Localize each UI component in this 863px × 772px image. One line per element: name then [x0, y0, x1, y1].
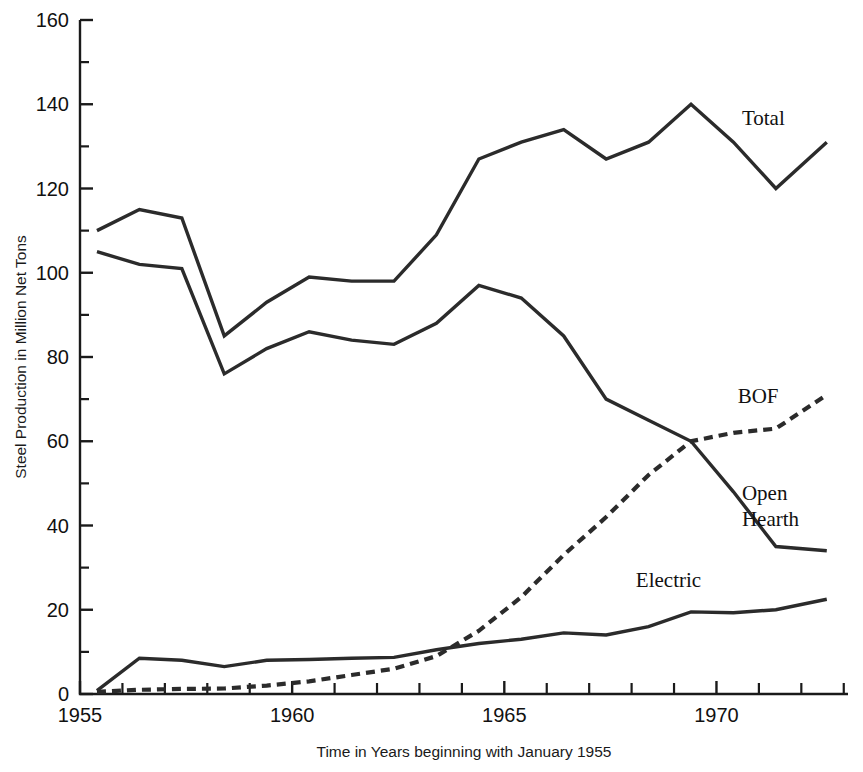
series-label-bof: BOF: [738, 384, 779, 408]
y-tick-label: 0: [58, 683, 69, 705]
y-axis-ticks: [80, 20, 93, 694]
y-axis-title: Steel Production in Million Net Tons: [12, 235, 29, 479]
series-line-electric: [97, 599, 827, 690]
x-tick-label: 1960: [270, 704, 315, 726]
chart-series-group: [97, 104, 827, 692]
y-tick-label: 100: [36, 262, 69, 284]
chart-axes: 020406080100120140160 1955196019651970: [36, 9, 848, 726]
y-tick-label: 120: [36, 178, 69, 200]
x-tick-label: 1955: [58, 704, 103, 726]
series-label-total: Total: [742, 106, 785, 130]
axis-frame: [80, 20, 848, 694]
y-tick-label: 80: [47, 346, 69, 368]
chart-figure: 020406080100120140160 1955196019651970 T…: [0, 0, 863, 772]
y-tick-label: 140: [36, 93, 69, 115]
line-chart: 020406080100120140160 1955196019651970 T…: [0, 0, 863, 772]
y-tick-label: 60: [47, 430, 69, 452]
x-axis-title: Time in Years beginning with January 195…: [317, 743, 612, 760]
chart-series-labels: TotalOpenHearthBOFElectric: [636, 106, 800, 591]
y-tick-label: 20: [47, 599, 69, 621]
series-line-open-hearth: [97, 252, 827, 551]
x-tick-label: 1965: [482, 704, 527, 726]
y-tick-label: 40: [47, 515, 69, 537]
series-label-electric: Electric: [636, 568, 701, 592]
series-label-open-hearth: OpenHearth: [742, 481, 800, 531]
y-tick-label: 160: [36, 9, 69, 31]
x-tick-label: 1970: [694, 704, 739, 726]
x-axis-tick-labels: 1955196019651970: [58, 704, 739, 726]
y-axis-tick-labels: 020406080100120140160: [36, 9, 69, 705]
